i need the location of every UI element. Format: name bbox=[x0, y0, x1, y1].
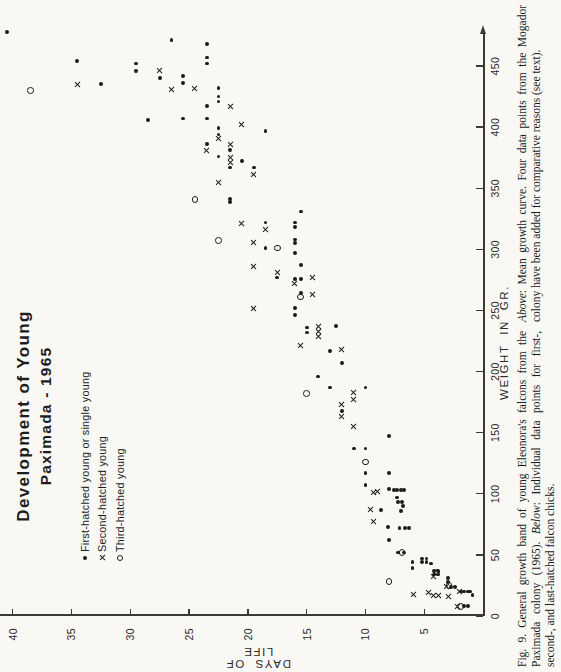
weight-tick-label: 400 bbox=[489, 112, 501, 142]
data-point-x bbox=[262, 226, 269, 233]
data-point-x bbox=[367, 506, 374, 513]
legend-label: First-hatched young or single young bbox=[79, 372, 91, 552]
chart-legend: First-hatched young or single youngSecon… bbox=[76, 372, 129, 564]
data-point-dot bbox=[466, 604, 470, 608]
data-point-dot bbox=[264, 221, 268, 225]
weight-tick-label: 100 bbox=[489, 479, 501, 509]
days-tick-label: 10 bbox=[359, 628, 371, 648]
data-point-x bbox=[350, 389, 357, 396]
data-point-dot bbox=[334, 324, 338, 328]
data-point-dot bbox=[305, 326, 309, 330]
data-point-dot bbox=[293, 221, 297, 225]
data-point-dot bbox=[340, 409, 344, 413]
data-point-dot bbox=[328, 349, 332, 353]
days-tick bbox=[71, 609, 72, 616]
data-point-dot bbox=[402, 488, 406, 492]
data-point-dot bbox=[364, 386, 368, 390]
days-tick-label: 15 bbox=[301, 628, 313, 648]
data-point-x bbox=[370, 518, 377, 525]
x-axis-label: WEIGHT IN GR. bbox=[498, 285, 510, 400]
days-tick-label: 25 bbox=[183, 628, 195, 648]
days-tick-label: 35 bbox=[65, 628, 77, 648]
data-point-dot bbox=[205, 104, 209, 108]
data-point-x bbox=[309, 291, 316, 298]
data-point-dot bbox=[205, 62, 209, 66]
data-point-dot bbox=[228, 166, 232, 170]
data-point-circle bbox=[192, 196, 199, 203]
data-point-dot bbox=[387, 538, 391, 542]
rotated-growth-chart-figure: 0501001502002503003504004505101520253035… bbox=[0, 0, 561, 672]
data-point-dot bbox=[305, 331, 309, 335]
data-point-dot bbox=[252, 166, 256, 170]
data-point-dot bbox=[420, 560, 424, 564]
data-point-circle bbox=[274, 245, 281, 252]
caption-below-figure: Fig. 9. General growth band of young Ele… bbox=[515, 331, 558, 667]
data-point-dot bbox=[401, 504, 405, 508]
data-point-dot bbox=[395, 496, 399, 500]
data-point-dot bbox=[364, 483, 368, 487]
weight-tick-label: 350 bbox=[489, 173, 501, 203]
data-point-dot bbox=[181, 117, 185, 121]
data-point-dot bbox=[217, 155, 221, 159]
data-point-x bbox=[370, 489, 377, 496]
weight-tick bbox=[476, 310, 483, 311]
weight-tick-label: 150 bbox=[489, 418, 501, 448]
legend-label: Third-hatched young bbox=[114, 448, 126, 552]
data-point-dot bbox=[299, 277, 303, 281]
weight-tick bbox=[476, 249, 483, 250]
days-tick bbox=[365, 609, 366, 616]
days-tick bbox=[306, 609, 307, 616]
data-point-x bbox=[74, 81, 81, 88]
data-point-x bbox=[338, 401, 345, 408]
days-tick bbox=[130, 609, 131, 616]
data-point-circle bbox=[303, 390, 310, 397]
data-point-x bbox=[191, 85, 198, 92]
data-point-dot bbox=[228, 148, 232, 152]
data-point-dot bbox=[429, 562, 433, 566]
figure-captions: Fig. 9. General growth band of young Ele… bbox=[515, 5, 558, 667]
data-point-x bbox=[350, 396, 357, 403]
data-point-dot bbox=[205, 142, 209, 146]
data-point-dot bbox=[228, 200, 232, 204]
data-point-dot bbox=[387, 471, 391, 475]
weight-axis-arrow-icon bbox=[480, 25, 486, 34]
weight-axis-line bbox=[483, 33, 485, 616]
data-point-dot bbox=[316, 375, 320, 379]
data-point-dot bbox=[217, 95, 221, 99]
x-marker-icon bbox=[99, 552, 106, 564]
data-point-dot bbox=[217, 126, 221, 130]
weight-tick bbox=[476, 126, 483, 127]
chart-title: Development of Young Paximada - 1965 bbox=[14, 288, 55, 544]
days-tick bbox=[188, 609, 189, 616]
data-point-x bbox=[250, 239, 257, 246]
data-point-dot bbox=[386, 525, 390, 529]
data-point-x bbox=[250, 263, 257, 270]
data-point-x bbox=[250, 305, 257, 312]
data-point-dot bbox=[181, 74, 185, 78]
data-point-dot bbox=[387, 434, 391, 438]
weight-tick-label: 300 bbox=[489, 234, 501, 264]
data-point-x bbox=[435, 592, 442, 599]
data-point-x bbox=[203, 147, 210, 154]
data-point-dot bbox=[146, 118, 150, 122]
data-point-dot bbox=[134, 69, 138, 73]
legend-row: Second-hatched young bbox=[94, 372, 112, 564]
data-point-dot bbox=[134, 62, 138, 66]
caption-text: : Mean growth curve. Four data points fr… bbox=[516, 5, 542, 322]
circle-marker-icon bbox=[117, 552, 123, 564]
days-axis-line bbox=[0, 614, 484, 616]
data-point-dot bbox=[352, 447, 356, 451]
data-point-x bbox=[156, 67, 163, 74]
dot-marker-icon bbox=[83, 552, 88, 564]
data-point-dot bbox=[425, 560, 429, 564]
data-point-x bbox=[168, 86, 175, 93]
data-point-dot bbox=[217, 86, 221, 90]
data-point-dot bbox=[364, 471, 368, 475]
data-point-circle bbox=[386, 579, 393, 586]
data-point-x bbox=[456, 588, 463, 595]
data-point-circle bbox=[215, 238, 222, 245]
days-tick bbox=[424, 609, 425, 616]
data-point-dot bbox=[205, 56, 209, 60]
data-point-dot bbox=[293, 313, 297, 317]
weight-tick bbox=[476, 554, 483, 555]
